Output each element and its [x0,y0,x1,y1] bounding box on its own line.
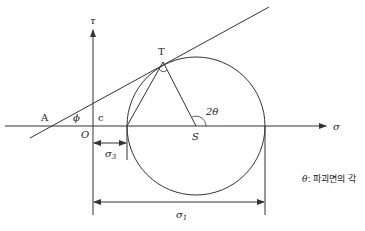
origin-label: O [81,129,89,140]
sigma-label: σ [333,121,341,132]
cohesion-label: c [98,112,104,123]
chord-line [127,62,163,126]
phi-label: ϕ [73,112,80,123]
point-a-label: A [40,112,49,123]
sigma1-label: σ1 [176,209,187,222]
note-text: θ: 파괴면의 각 [302,173,356,184]
failure-envelope-line [30,7,269,138]
two-theta-arc [192,116,206,126]
right-angle-mark [159,69,167,72]
tau-label: τ [90,15,96,26]
diagram-svg: τ σ O A T S c ϕ 2θ σ3 σ1 θ: 파괴면의 각 [0,0,365,231]
two-theta-label: 2θ [205,106,218,117]
radius-line [163,62,196,126]
point-s-label: S [192,131,199,142]
sigma3-label: σ3 [105,148,117,161]
point-t-label: T [158,46,165,57]
mohr-circle-diagram: τ σ O A T S c ϕ 2θ σ3 σ1 θ: 파괴면의 각 [0,0,365,231]
